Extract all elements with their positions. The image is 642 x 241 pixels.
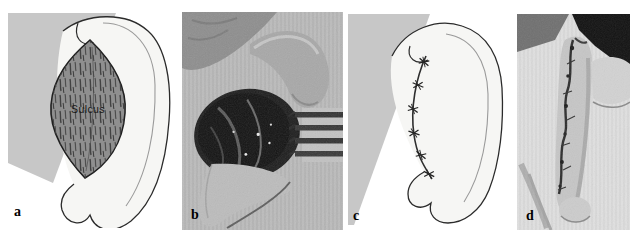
photo-grain-overlay [517,14,630,230]
panel-label-b: b [191,208,199,222]
panel-label-a: a [14,205,21,219]
panel-a-illustration: Sulcus a [8,13,178,228]
panel-d-photograph: d [517,14,630,230]
ear-sulcus-illustration: Sulcus [8,13,178,228]
postop-photo [517,14,630,230]
sutured-ear-illustration [348,14,508,228]
figure-canvas: Sulcus a [0,0,642,241]
panel-b-photograph: b [182,12,343,230]
panel-label-c: c [353,209,359,223]
photo-grain-overlay [182,12,343,230]
panel-label-d: d [526,209,534,223]
sulcus-annotation: Sulcus [71,103,105,115]
panel-c-illustration: c [348,14,508,228]
surgical-photo [182,12,343,230]
